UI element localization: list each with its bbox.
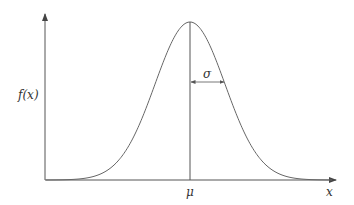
x-axis-label: x [326, 185, 333, 199]
sigma-label: σ [203, 67, 212, 81]
normal-distribution-diagram: σ f(x) μ x [0, 0, 354, 205]
bell-curve [46, 22, 332, 180]
mean-label: μ [186, 185, 194, 199]
y-axis-label: f(x) [17, 88, 39, 102]
